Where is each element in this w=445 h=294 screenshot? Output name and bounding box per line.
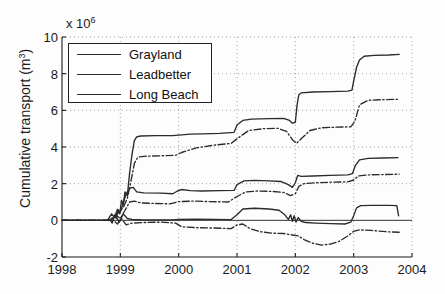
x-tick-label-2003: 2003 bbox=[339, 262, 368, 277]
legend-label-longbeach: Long Beach bbox=[129, 87, 198, 102]
legend-label-leadbetter: Leadbetter bbox=[129, 67, 191, 82]
legend-swatch-grayland bbox=[77, 54, 121, 55]
x-tick-label-2001: 2001 bbox=[223, 262, 252, 277]
x-tick-label-2000: 2000 bbox=[164, 262, 193, 277]
series-line-grayland-mid bbox=[62, 158, 398, 221]
legend-item-2: Long Beach bbox=[69, 84, 211, 104]
legend-swatch-longbeach bbox=[77, 94, 121, 95]
legend-item-0: Grayland bbox=[69, 44, 211, 64]
x-tick-label-1998: 1998 bbox=[48, 262, 77, 277]
legend-swatch-leadbetter bbox=[77, 74, 121, 75]
x-tick-label-2002: 2002 bbox=[281, 262, 310, 277]
chart-figure: Cumulative transport (m3) x 106 1086420-… bbox=[0, 0, 445, 294]
x-tick-label-2004: 2004 bbox=[398, 262, 427, 277]
chart-legend: Grayland Leadbetter Long Beach bbox=[68, 43, 212, 103]
plot-canvas bbox=[0, 0, 445, 294]
legend-item-1: Leadbetter bbox=[69, 64, 211, 84]
x-tick-label-1999: 1999 bbox=[106, 262, 135, 277]
series-line-leadbetter-mid bbox=[62, 174, 399, 220]
series-line-leadbetter-upper bbox=[62, 99, 397, 220]
legend-label-grayland: Grayland bbox=[129, 47, 182, 62]
